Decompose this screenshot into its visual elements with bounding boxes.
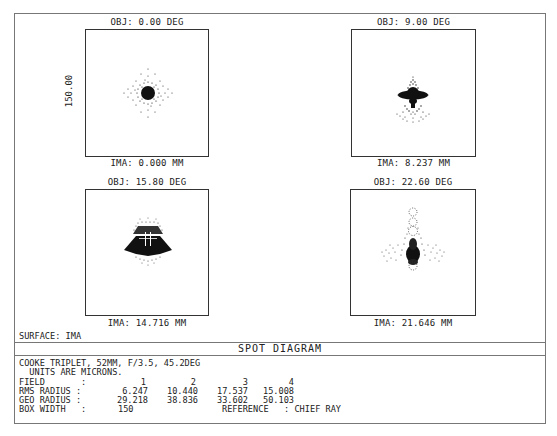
units-note: UNITS ARE MICRONS. [19,367,122,377]
box-width-label: BOX WIDTH : [19,404,86,414]
spot-field-1 [124,69,173,118]
spot-field-4 [382,208,445,270]
box-width-value: 150 [118,404,134,414]
geo-field-2: 38.836 [162,395,198,405]
surface-label: SURFACE: IMA [19,331,81,341]
spot-field-2 [397,76,430,122]
reference-text: REFERENCE : CHIEF RAY [222,404,341,414]
divider-bottom [14,355,546,356]
spot-field-3 [124,218,172,266]
chart-title: SPOT DIAGRAM [14,343,546,355]
